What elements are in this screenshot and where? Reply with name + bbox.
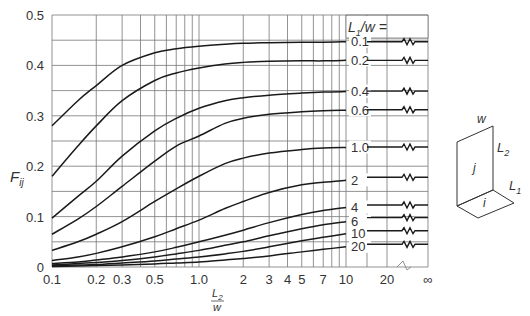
asymptote-1.0 bbox=[367, 144, 428, 150]
view-factor-chart: 0.10.20.40.61.02461020 00.10.20.30.40.50… bbox=[0, 0, 530, 316]
x-tick: 0.3 bbox=[113, 272, 131, 287]
x-tick: 10 bbox=[339, 272, 353, 287]
legend-label-0.4: 0.4 bbox=[351, 84, 369, 99]
asymptote-0.2 bbox=[367, 57, 428, 63]
asymptote-2 bbox=[367, 174, 428, 180]
x-tick: 20 bbox=[380, 272, 394, 287]
diagram-j-label: j bbox=[471, 161, 476, 175]
diagram-L2-label: L2 bbox=[497, 140, 509, 158]
legend-label-20: 20 bbox=[351, 239, 365, 254]
y-tick: 0.2 bbox=[26, 159, 44, 174]
asymptote-0.4 bbox=[367, 88, 428, 94]
x-tick: 2 bbox=[240, 272, 247, 287]
asymptote-6 bbox=[367, 215, 428, 221]
x-tick: ∞ bbox=[423, 272, 432, 287]
x-tick: 0.5 bbox=[146, 272, 164, 287]
x-tick: 1.0 bbox=[190, 272, 208, 287]
x-tick: 0.1 bbox=[43, 272, 61, 287]
y-axis-label: Fij bbox=[10, 168, 24, 188]
legend-label-0.6: 0.6 bbox=[351, 103, 369, 118]
x-tick: 7 bbox=[320, 272, 327, 287]
legend-label-0.2: 0.2 bbox=[351, 53, 369, 68]
asymptote-0.6 bbox=[367, 107, 428, 113]
x-tick: 3 bbox=[266, 272, 273, 287]
svg-text:w: w bbox=[213, 301, 222, 313]
diagram-i-label: i bbox=[483, 196, 486, 210]
chart-legend: 0.10.20.40.61.02461020 bbox=[349, 34, 428, 254]
asymptote-20 bbox=[367, 241, 428, 247]
asymptote-0.1 bbox=[367, 39, 428, 45]
asymptote-10 bbox=[367, 228, 428, 234]
x-tick: 5 bbox=[298, 272, 305, 287]
y-tick: 0.1 bbox=[26, 210, 44, 225]
diagram-L1-label: L1 bbox=[509, 178, 521, 196]
y-tick: 0.5 bbox=[26, 8, 44, 23]
legend-label-1.0: 1.0 bbox=[351, 140, 369, 155]
legend-label-4: 4 bbox=[351, 200, 358, 215]
x-tick: 4 bbox=[284, 272, 291, 287]
y-tick: 0.3 bbox=[26, 109, 44, 124]
y-tick: 0.4 bbox=[26, 58, 44, 73]
diagram-w-label: w bbox=[477, 112, 487, 126]
legend-label-2: 2 bbox=[351, 173, 358, 188]
x-tick: 0.2 bbox=[87, 272, 105, 287]
svg-text:L2: L2 bbox=[212, 287, 223, 302]
x-axis-label: L2 w bbox=[211, 287, 224, 313]
asymptote-4 bbox=[367, 202, 428, 208]
